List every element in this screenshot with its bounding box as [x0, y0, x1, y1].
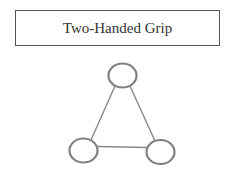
- node-bottom-left: [70, 139, 98, 163]
- edge-top-bottom-right: [130, 86, 155, 141]
- nodes: [70, 64, 175, 165]
- edge-top-bottom-left: [91, 86, 115, 140]
- edge-bottom-left-bottom-right: [98, 147, 147, 148]
- node-bottom-right: [147, 140, 175, 164]
- edges: [91, 86, 155, 148]
- triangle-diagram: [0, 0, 231, 178]
- node-top: [109, 64, 137, 88]
